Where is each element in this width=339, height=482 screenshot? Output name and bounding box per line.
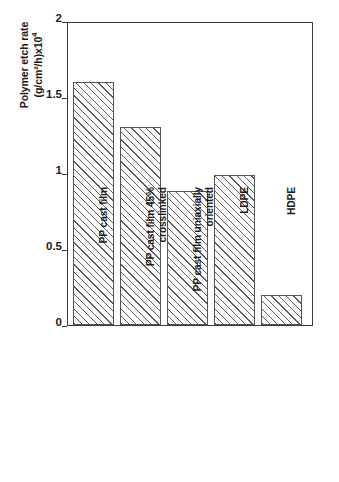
y-tick-label-1.5: 1.5 xyxy=(46,89,62,101)
y-axis-title-units: (g/cm²/h)x10 xyxy=(31,37,43,98)
x-label-pp-cast-film-45-crosslinked-line1: PP cast film 45% xyxy=(145,187,157,333)
x-label-pp-cast-film-45-crosslinked: PP cast film 45% crosslinked xyxy=(145,187,170,333)
y-tick-label-0.5: 0.5 xyxy=(46,241,62,253)
x-label-pp-cast-film-uniaxially-oriented-line2: oriented xyxy=(204,187,216,333)
x-label-pp-cast-film-line1: PP cast film xyxy=(98,187,110,333)
y-axis-title-line2: (g/cm²/h)x104 xyxy=(31,33,44,98)
y-axis-title: Polymer etch rate (g/cm²/h)x104 xyxy=(14,0,48,130)
x-label-pp-cast-film-uniaxially-oriented-line1: PP cast film uniaxially xyxy=(192,187,204,333)
x-label-pp-cast-film: PP cast film xyxy=(98,187,110,333)
x-label-ldpe-line1: LDPE xyxy=(239,187,251,333)
x-label-ldpe: LDPE xyxy=(239,187,251,333)
y-tick-mark-0 xyxy=(62,326,67,327)
x-label-hdpe-line1: HDPE xyxy=(286,187,298,333)
x-label-pp-cast-film-45-crosslinked-line2: crosslinked xyxy=(157,187,169,333)
y-axis-title-exponent: 4 xyxy=(30,33,39,37)
x-label-pp-cast-film-uniaxially-oriented: PP cast film uniaxially oriented xyxy=(192,187,217,333)
x-label-hdpe: HDPE xyxy=(286,187,298,333)
bar-chart-figure: Polymer etch rate (g/cm²/h)x104 0 0.5 1 … xyxy=(0,0,339,482)
